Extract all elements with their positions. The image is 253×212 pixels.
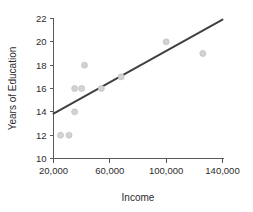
chart-canvas: 10121416182022 20,00060,000100,000140,00… [0, 0, 253, 212]
y-tick-label: 22 [36, 13, 47, 24]
data-point [200, 51, 206, 57]
data-points [58, 39, 206, 138]
data-point [118, 74, 124, 80]
trend-line [54, 20, 223, 114]
y-axis: 10121416182022 [36, 13, 54, 164]
x-axis: 20,00060,000100,000140,000 [39, 159, 240, 176]
y-tick-label: 14 [36, 106, 47, 117]
y-tick-label: 18 [36, 60, 47, 71]
data-point [98, 86, 104, 92]
y-tick-label: 10 [36, 153, 47, 164]
data-point [66, 132, 72, 138]
data-point [58, 132, 64, 138]
data-point [79, 86, 85, 92]
y-axis-title: Years of Education [7, 47, 18, 131]
data-point [163, 39, 169, 45]
y-tick-label: 16 [36, 83, 47, 94]
x-tick-label: 60,000 [95, 165, 124, 176]
data-point [72, 86, 78, 92]
x-tick-label: 100,000 [149, 165, 183, 176]
regression-line [54, 20, 223, 114]
y-tick-label: 12 [36, 130, 47, 141]
x-axis-title: Income [122, 192, 155, 203]
scatter-chart: 10121416182022 20,00060,000100,000140,00… [0, 0, 253, 212]
y-tick-label: 20 [36, 36, 47, 47]
x-tick-label: 20,000 [39, 165, 68, 176]
data-point [72, 109, 78, 115]
data-point [81, 62, 87, 68]
x-tick-label: 140,000 [205, 165, 239, 176]
